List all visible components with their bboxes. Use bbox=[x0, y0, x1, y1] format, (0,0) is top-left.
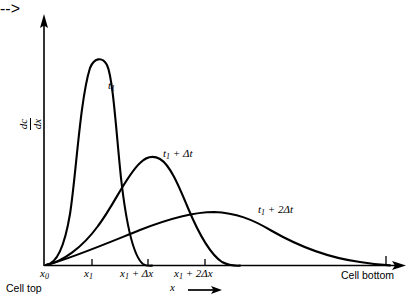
curve-label-t1-plus-dt: t1 + Δt bbox=[163, 148, 193, 161]
xtick-label-x1-plus-dx: x1 + Δx bbox=[120, 268, 153, 281]
y-axis-label-numerator: dc bbox=[17, 118, 29, 130]
x-axis-direction-label: x bbox=[170, 282, 175, 293]
curve-label-t1-plus-2dt: t1 + 2Δt bbox=[258, 204, 293, 217]
cell-bottom-label: Cell bottom bbox=[341, 270, 394, 281]
cell-top-label: Cell top bbox=[6, 283, 42, 294]
x-axis-ticks bbox=[92, 256, 386, 266]
x-axis-direction-arrow-icon bbox=[186, 283, 226, 297]
curve-t1 bbox=[46, 59, 152, 266]
xtick-label-x1-plus-2dx: x1 + 2Δx bbox=[174, 268, 213, 281]
curve-t1-plus-2dt bbox=[46, 212, 390, 265]
y-axis-label: dc dx bbox=[10, 104, 50, 144]
y-axis-label-denominator: dx bbox=[30, 118, 43, 130]
xtick-label-x0: x0 bbox=[40, 268, 49, 281]
curve-label-t1: t1 bbox=[108, 80, 115, 93]
plot-canvas bbox=[0, 0, 416, 304]
xtick-label-x1: x1 bbox=[84, 268, 93, 281]
diffusion-profile-figure: dc dx x0 x1 x1 + Δx x1 + 2Δx t1 t1 + Δt … bbox=[0, 0, 416, 304]
